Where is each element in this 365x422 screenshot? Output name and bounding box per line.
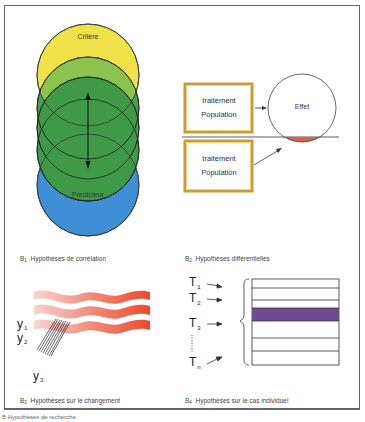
y3-base: y [33,369,39,383]
caption-b2-sub: 2 [189,258,192,263]
criterion-label: Critère [68,33,108,40]
t2-sub: 2 [197,300,200,306]
t2-label: T2 [189,291,201,306]
individual-case-diagram [192,279,339,365]
change-waves [34,290,150,356]
y2-sub: 2 [24,339,27,345]
caption-b2: B2 Hypothèses différentielles [185,255,270,263]
caption-b1-text: Hypothèses de corrélation [30,255,106,262]
t3-base: T [189,316,196,330]
box-1-line-2: Population [187,108,251,122]
caption-b3-text: Hypothèses sur le changement [30,397,120,404]
caption-b4-sub: 4 [189,400,192,405]
figure-footer-caption: B Hypothèses de recherche [2,414,76,420]
y3-sub: 3 [40,377,43,383]
tn-sub: n [197,364,200,370]
predictor-label: Prédicteur [63,191,113,198]
box-1-line-1: traitement [187,94,251,108]
tn-base: T [189,355,196,369]
effect-label: Effet [287,103,317,110]
caption-b3: B3 Hypothèses sur le changement [20,397,120,405]
caption-b3-sub: 3 [24,400,27,405]
treatment-box-1: traitement Population [187,94,251,122]
caption-b1-sub: 1 [24,258,27,263]
caption-b4-text: Hypothèses sur le cas individuel [195,397,288,404]
t3-sub: 3 [197,325,200,331]
caption-b2-text: Hypothèses différentielles [195,255,269,262]
t1-label: T1 [189,275,201,290]
t3-label: T3 [189,316,201,331]
correlation-circles [37,24,139,236]
y1-label: y1 [17,317,27,331]
t1-sub: 1 [197,284,200,290]
treatment-box-2: traitement Population [187,152,251,180]
y1-base: y [17,317,23,331]
t1-base: T [189,275,196,289]
y2-base: y [17,331,23,345]
y3-label: y3 [33,369,43,383]
box-2-line-1: traitement [187,152,251,166]
caption-b1: B1 Hypothèses de corrélation [20,255,106,263]
box-2-line-2: Population [187,166,251,180]
diagram-canvas [0,0,365,422]
tn-label: Tn [189,355,201,370]
t2-base: T [189,291,196,305]
y2-label: y2 [17,331,27,345]
caption-b4: B4 Hypothèses sur le cas individuel [185,397,288,405]
